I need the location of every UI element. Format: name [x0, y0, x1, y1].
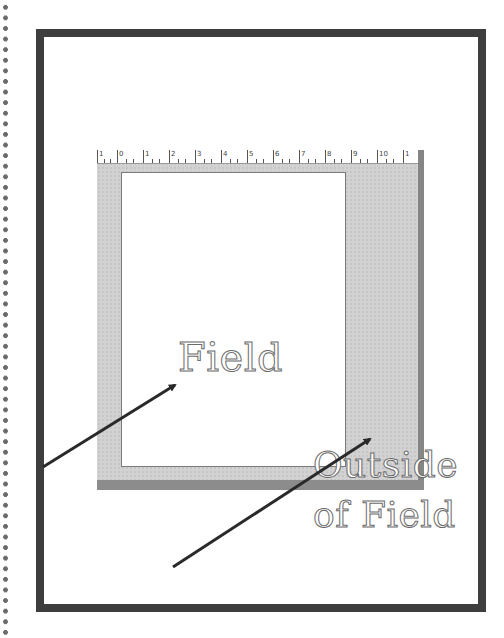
ruler-number: 0	[119, 150, 123, 158]
ruler-minor-tick	[282, 159, 283, 163]
ruler-minor-tick	[159, 159, 160, 163]
ruler-minor-tick	[386, 159, 387, 163]
ruler-tick	[195, 150, 196, 163]
page-field-area	[121, 172, 346, 467]
ruler-minor-tick	[237, 159, 238, 163]
ruler-minor-tick	[204, 159, 205, 163]
ruler-number: 8	[327, 150, 331, 158]
ruler-tick	[403, 150, 404, 163]
ruler-tick	[117, 150, 118, 163]
ruler-number: 1	[145, 150, 149, 158]
ruler-minor-tick	[256, 159, 257, 163]
ruler-minor-tick	[185, 159, 186, 163]
ruler-minor-tick	[334, 159, 335, 163]
ruler-tick	[247, 150, 248, 163]
field-label: Field	[178, 334, 283, 380]
ruler-minor-tick	[110, 159, 111, 163]
ruler-number: 7	[301, 150, 305, 158]
ruler-minor-tick	[104, 159, 105, 163]
horizontal-ruler: 1 0 1 2 3 4 5 6 7 8 9 10 1	[97, 150, 418, 164]
ruler-tick	[351, 150, 352, 163]
outside-label-line2: of Field	[313, 494, 456, 535]
ruler-tick	[299, 150, 300, 163]
ruler-tick	[97, 150, 98, 163]
dotted-margin-line	[2, 2, 9, 638]
window-shadow-right	[418, 150, 424, 490]
ruler-minor-tick	[315, 159, 316, 163]
ruler-minor-tick	[211, 159, 212, 163]
ruler-minor-tick	[126, 159, 127, 163]
ruler-tick	[221, 150, 222, 163]
ruler-minor-tick	[341, 159, 342, 163]
ruler-number: 1	[405, 150, 409, 158]
ruler-number: 4	[223, 150, 227, 158]
ruler-number: 6	[275, 150, 279, 158]
ruler-number: 3	[197, 150, 201, 158]
ruler-tick	[377, 150, 378, 163]
ruler-tick	[143, 150, 144, 163]
ruler-minor-tick	[133, 159, 134, 163]
ruler-minor-tick	[230, 159, 231, 163]
ruler-minor-tick	[393, 159, 394, 163]
ruler-minor-tick	[289, 159, 290, 163]
ruler-minor-tick	[152, 159, 153, 163]
ruler-number: 5	[249, 150, 253, 158]
ruler-tick	[325, 150, 326, 163]
ruler-tick	[169, 150, 170, 163]
ruler-minor-tick	[263, 159, 264, 163]
ruler-minor-tick	[360, 159, 361, 163]
ruler-number: 1	[99, 150, 103, 158]
outside-label-line1: Outside	[313, 444, 458, 485]
ruler-minor-tick	[308, 159, 309, 163]
ruler-number: 9	[353, 150, 357, 158]
ruler-number: 2	[171, 150, 175, 158]
ruler-tick	[273, 150, 274, 163]
ruler-minor-tick	[367, 159, 368, 163]
ruler-minor-tick	[178, 159, 179, 163]
ruler-number: 10	[379, 150, 388, 158]
